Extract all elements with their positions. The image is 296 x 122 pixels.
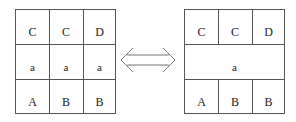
- right-cell-B: B: [252, 95, 285, 110]
- left-cell-A: A: [16, 95, 49, 110]
- right-cell-c: C: [185, 25, 218, 40]
- left-cell-c: C: [49, 25, 83, 40]
- left-cell-d: D: [83, 25, 116, 40]
- divider: [16, 44, 115, 45]
- divider: [185, 44, 284, 45]
- right-cell-A: A: [185, 95, 218, 110]
- divider: [16, 79, 115, 80]
- left-cell-B: B: [83, 95, 116, 110]
- right-merged-cell-a: a: [185, 61, 284, 73]
- divider: [185, 79, 284, 80]
- left-cell-B: B: [49, 95, 83, 110]
- right-cell-B: B: [218, 95, 252, 110]
- left-grid: C C D a a a A B B: [15, 9, 116, 114]
- left-cell-a: a: [49, 61, 83, 73]
- left-cell-c: C: [16, 25, 49, 40]
- left-cell-a: a: [83, 61, 116, 73]
- right-grid: C C D a A B B: [184, 9, 285, 114]
- double-arrow-icon: [120, 46, 176, 74]
- left-cell-a: a: [16, 61, 49, 73]
- right-cell-c: C: [218, 25, 252, 40]
- right-cell-d: D: [252, 25, 285, 40]
